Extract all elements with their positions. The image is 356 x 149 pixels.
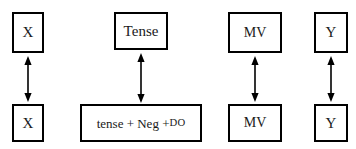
node-label-y-bottom: Y bbox=[326, 116, 337, 131]
node-label-tense-bottom-main: tense + Neg + bbox=[97, 117, 170, 130]
node-box-x-top: X bbox=[12, 12, 44, 53]
node-box-x-bottom: X bbox=[12, 104, 44, 142]
node-label-tense-top: Tense bbox=[124, 24, 159, 39]
node-box-mv-bottom: MV bbox=[228, 104, 282, 142]
double-headed-vertical-arrow-mv bbox=[249, 56, 261, 102]
node-label-tense-bottom-do: DO bbox=[169, 118, 185, 129]
diagram-canvas: X X Tense tense + Neg + DO MV bbox=[0, 0, 356, 149]
node-box-mv-top: MV bbox=[228, 12, 282, 53]
node-box-tense-top: Tense bbox=[114, 12, 168, 50]
node-label-y-top: Y bbox=[326, 25, 337, 40]
double-headed-vertical-arrow-x bbox=[22, 56, 34, 102]
double-headed-vertical-arrow-y bbox=[325, 56, 337, 102]
double-headed-vertical-arrow-tense bbox=[135, 53, 147, 103]
node-label-x-top: X bbox=[23, 25, 34, 40]
node-box-y-bottom: Y bbox=[314, 104, 348, 142]
node-box-tense-bottom: tense + Neg + DO bbox=[80, 104, 202, 142]
node-label-mv-bottom: MV bbox=[244, 116, 267, 130]
node-label-mv-top: MV bbox=[244, 26, 267, 40]
node-label-x-bottom: X bbox=[23, 116, 34, 131]
node-box-y-top: Y bbox=[314, 12, 348, 53]
